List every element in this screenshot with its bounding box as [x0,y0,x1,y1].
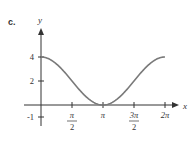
x-tick-label-denominator: 2 [132,122,136,132]
x-tick-label: 2π [161,110,170,120]
x-tick-label: π [70,110,75,120]
y-axis-label: y [37,15,42,25]
x-axis-label: x [182,101,187,111]
axes [24,32,175,126]
y-tick-label: -1 [27,112,34,122]
x-tick-label: 3π [129,110,139,120]
cosine-graph: c. x y 42-1 π2π3π22π [0,0,191,141]
x-ticks: π2π3π22π [67,102,170,132]
x-tick-label-denominator: 2 [70,122,74,132]
panel-label: c. [8,17,16,27]
y-tick-label: 4 [30,52,35,62]
x-axis-arrow-icon [172,102,179,108]
data-curve [41,57,165,105]
y-tick-label: 2 [30,76,34,86]
y-axis-arrow-icon [38,28,44,35]
x-tick-label: π [101,110,106,120]
